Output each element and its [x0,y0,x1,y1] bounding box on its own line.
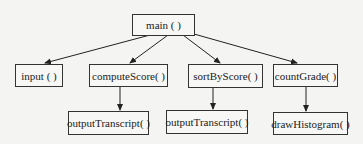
edge-main-countGrade [194,34,297,63]
node-countGrade: countGrade( ) [273,64,338,87]
node-drawHistogram: drawHistogram( ) [273,112,348,135]
node-outputTranscript-2: outputTranscript( ) [166,110,248,134]
node-sortByScore: sortByScore( ) [188,64,263,88]
edge-main-input [45,35,150,63]
node-outputTranscript-1: outputTranscript( ) [68,111,149,135]
node-computeScore: computeScore( ) [89,64,168,87]
node-main: main ( ) [132,14,195,36]
node-input: input ( ) [15,64,63,87]
edge-main-sortByScore [183,35,220,63]
